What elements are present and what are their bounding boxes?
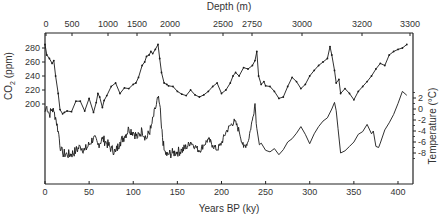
- co2-data-point: [84, 110, 86, 112]
- co2-data-point: [265, 85, 267, 87]
- plot-frame: [45, 33, 413, 184]
- co2-data-point: [287, 86, 289, 88]
- co2-data-point: [388, 54, 390, 56]
- co2-series-line: [44, 44, 408, 115]
- co2-data-point: [318, 65, 320, 67]
- co2-data-point: [258, 75, 260, 77]
- left-axis-title-unit: (ppm): [3, 52, 14, 81]
- top-axis-title: Depth (m): [207, 1, 251, 12]
- co2-data-point: [103, 100, 105, 102]
- co2-data-point: [132, 84, 134, 86]
- bottom-axis-tick-label: 300: [302, 187, 317, 197]
- bottom-axis-tick-label: 100: [126, 187, 141, 197]
- co2-data-point: [66, 110, 68, 112]
- co2-data-point: [247, 68, 249, 70]
- left-axis-tick-label: 220: [25, 85, 40, 95]
- co2-data-point: [93, 112, 95, 114]
- co2-data-point: [166, 84, 168, 86]
- co2-data-point: [53, 60, 55, 62]
- top-axis-tick-label: 3000: [292, 19, 312, 29]
- left-axis-title: CO2 (ppm): [3, 52, 16, 100]
- bottom-axis-tick-label: 200: [214, 187, 229, 197]
- co2-data-point: [181, 93, 183, 95]
- co2-data-point: [190, 89, 192, 91]
- co2-data-point: [115, 82, 117, 84]
- top-axis-tick-label: 2500: [213, 19, 233, 29]
- co2-data-point: [263, 81, 265, 83]
- co2-data-point: [274, 91, 276, 93]
- co2-data-point: [161, 72, 163, 74]
- co2-data-point: [225, 89, 227, 91]
- left-axis-tick-label: 260: [25, 57, 40, 67]
- co2-data-point: [402, 47, 404, 49]
- co2-data-point: [322, 61, 324, 63]
- co2-data-point: [194, 94, 196, 96]
- co2-data-point: [379, 63, 381, 65]
- co2-data-point: [49, 58, 51, 60]
- bottom-axis-title: Years BP (ky): [199, 203, 260, 214]
- right-axis-tick-label: -6: [418, 137, 426, 147]
- co2-data-point: [46, 54, 48, 56]
- co2-data-point: [51, 63, 53, 65]
- co2-data-point: [124, 87, 126, 89]
- co2-data-point: [110, 86, 112, 88]
- co2-data-point: [331, 54, 333, 56]
- co2-data-point: [106, 95, 108, 97]
- co2-data-point: [79, 100, 81, 102]
- co2-data-point: [406, 44, 408, 46]
- co2-data-point: [141, 65, 143, 67]
- bottom-axis-tick-label: 0: [42, 187, 47, 197]
- co2-data-point: [71, 111, 73, 113]
- co2-data-point: [59, 109, 61, 111]
- co2-data-point: [55, 75, 57, 77]
- right-axis-tick-label: -4: [418, 126, 426, 136]
- right-axis-tick-label: 2: [418, 93, 423, 103]
- co2-data-point: [309, 75, 311, 77]
- co2-data-point: [157, 44, 159, 46]
- co2-data-point: [296, 81, 298, 83]
- co2-data-point: [229, 82, 231, 84]
- co2-data-point: [278, 98, 280, 100]
- top-axis-tick-label: 1000: [98, 19, 118, 29]
- temperature-polyline: [45, 91, 407, 158]
- right-temperature-axis: 20-2-4-6-8: [413, 93, 426, 159]
- co2-data-point: [212, 86, 214, 88]
- co2-data-point: [154, 49, 156, 51]
- co2-data-point: [44, 44, 46, 46]
- co2-data-point: [335, 82, 337, 84]
- co2-data-point: [62, 113, 64, 115]
- top-axis-tick-label: 2000: [160, 19, 180, 29]
- co2-data-point: [146, 56, 148, 58]
- co2-data-point: [235, 72, 237, 74]
- co2-data-point: [128, 88, 130, 90]
- co2-data-point: [269, 86, 271, 88]
- co2-data-point: [232, 75, 234, 77]
- top-axis-tick-label: 2750: [242, 19, 262, 29]
- co2-data-point: [300, 88, 302, 90]
- co2-data-point: [334, 70, 336, 72]
- temperature-series-line: [45, 91, 407, 158]
- co2-polyline: [45, 45, 407, 114]
- co2-data-point: [338, 79, 340, 81]
- co2-data-point: [177, 91, 179, 93]
- bottom-axis-tick-label: 250: [258, 187, 273, 197]
- co2-data-point: [138, 77, 140, 79]
- top-axis-tick-label: 1500: [127, 19, 147, 29]
- co2-data-point: [371, 75, 373, 77]
- top-axis-tick-label: 3300: [400, 19, 420, 29]
- left-axis-tick-label: 240: [25, 71, 40, 81]
- co2-data-point: [95, 102, 97, 104]
- co2-data-point: [159, 58, 161, 60]
- ice-core-chart: 050010001500200025002750300032003300 050…: [0, 0, 444, 216]
- co2-data-point: [252, 65, 254, 67]
- co2-data-point: [216, 82, 218, 84]
- co2-data-point: [57, 93, 59, 95]
- co2-data-point: [254, 60, 256, 62]
- co2-data-point: [313, 70, 315, 72]
- co2-data-point: [97, 93, 99, 95]
- co2-data-point: [366, 81, 368, 83]
- co2-data-point: [340, 93, 342, 95]
- co2-data-point: [282, 96, 284, 98]
- co2-data-point: [102, 107, 104, 109]
- co2-data-point: [397, 49, 399, 51]
